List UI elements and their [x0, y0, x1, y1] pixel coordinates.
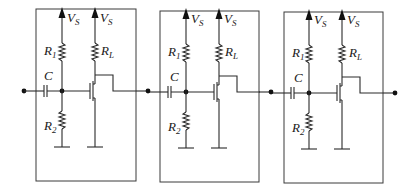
output-node — [393, 91, 398, 96]
svg-text:C: C — [170, 69, 179, 84]
stage-2-circuit — [148, 8, 260, 148]
svg-text:VS: VS — [100, 10, 113, 27]
svg-text:VS: VS — [191, 11, 204, 28]
stage-1-labels: VS VS R1 RL C R2 — [43, 10, 114, 135]
svg-text:R2: R2 — [43, 118, 57, 135]
svg-text:VS: VS — [224, 11, 237, 28]
stage-3-labels: VS VS R1 RL C R2 — [291, 12, 362, 137]
svg-text:R2: R2 — [167, 119, 181, 136]
svg-text:C: C — [44, 68, 53, 83]
svg-text:RL: RL — [348, 45, 362, 62]
stage-3-circuit — [271, 9, 383, 149]
svg-text:R2: R2 — [291, 120, 305, 137]
svg-text:RL: RL — [100, 43, 114, 60]
stage-2-labels: VS VS R1 RL C R2 — [167, 11, 238, 136]
amplifier-circuit-diagram: VS VS R1 RL C R2 VS VS R1 RL C R2 VS VS … — [0, 0, 413, 194]
svg-text:C: C — [294, 70, 303, 85]
svg-text:R1: R1 — [43, 43, 56, 60]
svg-text:VS: VS — [347, 12, 360, 29]
junction-node-1 — [146, 89, 151, 94]
stage-1-box — [36, 9, 136, 181]
svg-text:R1: R1 — [291, 45, 304, 62]
svg-text:VS: VS — [314, 12, 327, 29]
stage-3-box — [284, 12, 383, 183]
stage-1-circuit — [24, 7, 136, 147]
svg-text:R1: R1 — [167, 44, 180, 61]
stage-2-box — [160, 11, 259, 182]
junction-node-2 — [269, 90, 274, 95]
svg-text:VS: VS — [67, 10, 80, 27]
svg-text:RL: RL — [224, 44, 238, 61]
